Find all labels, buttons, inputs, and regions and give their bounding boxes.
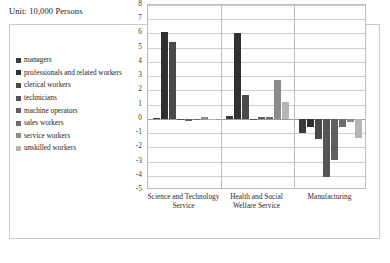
plot-wrapper: 876543210-1-2-3-4-5 Science and Technolo…: [131, 4, 367, 211]
group-separator: [221, 5, 222, 188]
legend-item: managers: [16, 54, 138, 67]
bar: [234, 33, 241, 118]
gridline: [148, 90, 365, 91]
bar: [242, 95, 249, 119]
y-axis-tick-label: -5: [136, 185, 142, 192]
bar: [185, 119, 192, 121]
chart-legend: managersprofessionals and related worker…: [16, 54, 138, 155]
bar: [209, 119, 216, 120]
legend-label: machine operators: [24, 107, 78, 115]
y-axis-tick-label: 6: [138, 29, 142, 36]
y-axis-tick-label: 1: [138, 100, 142, 107]
y-axis: 876543210-1-2-3-4-5: [131, 4, 144, 189]
plot-area: [147, 4, 366, 189]
bar: [153, 118, 160, 119]
bar: [250, 119, 257, 120]
bar: [201, 117, 208, 119]
bar: [299, 119, 306, 133]
group-separator: [294, 5, 295, 188]
legend-item: professionals and related workers: [16, 67, 138, 80]
gridline: [148, 105, 365, 106]
y-axis-tick-label: 7: [138, 15, 142, 22]
legend-swatch-icon: [16, 70, 21, 75]
gridline: [148, 19, 365, 20]
bar: [282, 102, 289, 118]
legend-item: technicians: [16, 92, 138, 105]
legend-label: service workers: [24, 132, 70, 140]
legend-swatch-icon: [16, 96, 21, 101]
legend-item: sales workers: [16, 117, 138, 130]
bar: [258, 117, 265, 118]
x-axis-category-label: Manufacturing: [293, 192, 366, 214]
bar: [161, 32, 168, 119]
legend-item: unskilled workers: [16, 142, 138, 155]
legend-swatch-icon: [16, 146, 21, 151]
bar: [331, 119, 338, 160]
legend-swatch-icon: [16, 83, 21, 88]
bar: [169, 42, 176, 119]
bar: [266, 117, 273, 119]
legend-swatch-icon: [16, 58, 21, 63]
bar: [355, 119, 362, 138]
legend-label: professionals and related workers: [24, 69, 122, 77]
y-axis-tick-label: -4: [136, 171, 142, 178]
legend-swatch-icon: [16, 108, 21, 113]
gridline: [148, 5, 365, 6]
y-axis-tick-label: -2: [136, 143, 142, 150]
legend-label: sales workers: [24, 119, 64, 127]
y-axis-tick-label: -3: [136, 157, 142, 164]
y-axis-tick-label: 4: [138, 57, 142, 64]
legend-swatch-icon: [16, 133, 21, 138]
bar: [177, 119, 184, 120]
y-axis-tick-label: 5: [138, 43, 142, 50]
x-axis-category-label: Science and Technology Service: [147, 192, 220, 214]
x-axis-labels: Science and Technology ServiceHealth and…: [147, 192, 366, 214]
legend-item: service workers: [16, 130, 138, 143]
bar: [339, 119, 346, 127]
bar: [226, 116, 233, 119]
gridline: [148, 48, 365, 49]
gridline: [148, 33, 365, 34]
legend-label: managers: [24, 56, 52, 64]
bar: [307, 119, 314, 128]
x-axis-category-label: Health and Social Welfare Service: [220, 192, 293, 214]
gridline: [148, 76, 365, 77]
legend-item: machine operators: [16, 104, 138, 117]
legend-item: clerical workers: [16, 79, 138, 92]
gridline: [148, 62, 365, 63]
y-axis-tick-label: 8: [138, 0, 142, 7]
gridline: [148, 176, 365, 177]
y-axis-tick-label: 2: [138, 86, 142, 93]
y-axis-tick-label: 0: [138, 114, 142, 121]
bar: [193, 119, 200, 120]
bar: [315, 119, 322, 139]
legend-label: technicians: [24, 94, 57, 102]
bar: [274, 80, 281, 118]
bar: [347, 119, 354, 122]
y-axis-tick-label: -1: [136, 128, 142, 135]
legend-label: unskilled workers: [24, 144, 76, 152]
legend-swatch-icon: [16, 121, 21, 126]
gridline: [148, 162, 365, 163]
y-axis-tick-label: 3: [138, 71, 142, 78]
legend-label: clerical workers: [24, 81, 71, 89]
bar: [323, 119, 330, 177]
unit-label: Unit: 10,000 Persons: [9, 6, 83, 16]
